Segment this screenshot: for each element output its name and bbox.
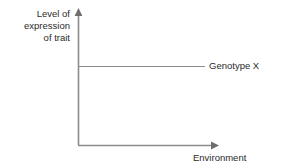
y-axis-label: Level of expression of trait [0, 8, 70, 44]
x-axis-arrowhead-icon [211, 142, 219, 150]
series-label-genotype-x: Genotype X [209, 60, 259, 72]
x-axis-label: Environment [193, 152, 246, 164]
y-axis-arrowhead-icon [75, 8, 83, 16]
genotype-reaction-norm-figure: Level of expression of trait Environment… [0, 0, 285, 167]
